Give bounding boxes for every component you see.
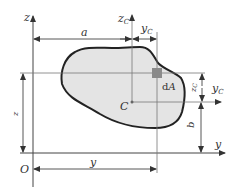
centroid-point <box>131 101 134 104</box>
yc-axis-label: yC <box>211 82 224 96</box>
b-label: b <box>185 122 196 128</box>
a-label: a <box>81 26 88 39</box>
y-dim-label: y <box>89 156 97 169</box>
centroid-label: C <box>120 100 129 113</box>
zc-axis-label: zC <box>117 12 130 26</box>
z-axis-label: z <box>23 11 30 24</box>
yc-top-label: yC <box>140 22 153 36</box>
centroid-diagram: z zC a yC zC yC C dA b z y O y <box>0 0 238 189</box>
dA-label: dA <box>162 81 176 92</box>
origin-label: O <box>20 163 29 176</box>
area-element-dA <box>152 68 162 78</box>
z-dim-label: z <box>11 111 20 117</box>
zc-right-label: zC <box>189 83 198 93</box>
y-axis-label: y <box>214 138 222 151</box>
